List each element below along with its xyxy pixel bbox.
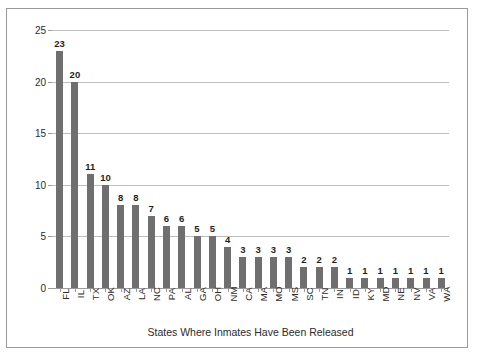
bar-series: 232011108876655433332221111111 — [52, 30, 449, 288]
bar-value-label: 2 — [301, 254, 306, 265]
bar[interactable]: 6 — [163, 226, 170, 288]
bar-value-label: 3 — [286, 244, 291, 255]
bar-value-label: 1 — [439, 265, 444, 276]
chart-figure: Number Released Since 1973 0510152025 23… — [0, 0, 477, 357]
x-label-slot: KY — [357, 293, 372, 321]
bar-value-label: 1 — [347, 265, 352, 276]
bar-slot: 10 — [98, 30, 113, 288]
bar-slot: 3 — [266, 30, 281, 288]
bar-value-label: 5 — [194, 223, 199, 234]
x-label-slot: MO — [266, 293, 281, 321]
bar[interactable]: 4 — [224, 247, 231, 288]
bar-value-label: 20 — [70, 69, 81, 80]
x-label-slot: MS — [281, 293, 296, 321]
x-label-slot: VA — [418, 293, 433, 321]
x-label-slot: TN — [312, 293, 327, 321]
x-label-slot: MD — [373, 293, 388, 321]
y-tick-label: 15 — [35, 128, 46, 139]
bar-value-label: 7 — [149, 203, 154, 214]
bar[interactable]: 3 — [285, 257, 292, 288]
bar[interactable]: 2 — [331, 267, 338, 288]
bar-slot: 1 — [373, 30, 388, 288]
bar[interactable]: 2 — [300, 267, 307, 288]
bar[interactable]: 10 — [102, 185, 109, 288]
x-label-slot: MA — [250, 293, 265, 321]
bar[interactable]: 8 — [132, 205, 139, 288]
bar[interactable]: 11 — [87, 174, 94, 288]
bar-slot: 20 — [67, 30, 82, 288]
bar-slot: 5 — [205, 30, 220, 288]
bar-value-label: 8 — [133, 192, 138, 203]
x-axis-title: States Where Inmates Have Been Released — [52, 326, 449, 338]
bar-value-label: 1 — [393, 265, 398, 276]
bar-slot: 6 — [159, 30, 174, 288]
y-tick-label: 5 — [40, 231, 46, 242]
bar[interactable]: 5 — [194, 236, 201, 288]
x-label-slot: TX — [83, 293, 98, 321]
bar-slot: 7 — [144, 30, 159, 288]
bar-value-label: 10 — [100, 172, 111, 183]
bar-value-label: 8 — [118, 192, 123, 203]
x-label-slot: ID — [342, 293, 357, 321]
x-label-slot: OH — [205, 293, 220, 321]
bar-value-label: 1 — [408, 265, 413, 276]
bar-slot: 8 — [128, 30, 143, 288]
bar-value-label: 3 — [271, 244, 276, 255]
bar-slot: 1 — [418, 30, 433, 288]
bar-value-label: 23 — [54, 38, 65, 49]
x-axis-tick-labels: FLILTXOKAZLANCPAALGAOHNMCAMAMOMSSCTNINID… — [52, 293, 449, 321]
bar[interactable]: 23 — [56, 51, 63, 288]
x-label-slot: OK — [98, 293, 113, 321]
bar-slot: 3 — [250, 30, 265, 288]
bar[interactable]: 2 — [316, 267, 323, 288]
bar-value-label: 3 — [255, 244, 260, 255]
bar-slot: 4 — [220, 30, 235, 288]
bar-slot: 1 — [434, 30, 449, 288]
x-label-slot: IN — [327, 293, 342, 321]
bar[interactable]: 1 — [361, 278, 368, 288]
bar-slot: 1 — [388, 30, 403, 288]
bar-value-label: 5 — [210, 223, 215, 234]
x-label-slot: NE — [388, 293, 403, 321]
bar-slot: 23 — [52, 30, 67, 288]
bar-value-label: 2 — [316, 254, 321, 265]
bar-slot: 11 — [83, 30, 98, 288]
y-tick-label: 0 — [40, 283, 46, 294]
bar-slot: 1 — [342, 30, 357, 288]
bar-value-label: 2 — [332, 254, 337, 265]
bar[interactable]: 8 — [117, 205, 124, 288]
bar-slot: 1 — [403, 30, 418, 288]
bar-value-label: 1 — [378, 265, 383, 276]
bar-slot: 3 — [281, 30, 296, 288]
plot-area: 0510152025 23201110887665543333222111111… — [52, 30, 449, 288]
bar-slot: 5 — [189, 30, 204, 288]
bar-slot: 2 — [296, 30, 311, 288]
bar[interactable]: 1 — [423, 278, 430, 288]
bar[interactable]: 3 — [270, 257, 277, 288]
x-label-slot: NM — [220, 293, 235, 321]
x-label-slot: FL — [52, 293, 67, 321]
x-label-slot: CA — [235, 293, 250, 321]
bar-slot: 2 — [312, 30, 327, 288]
bar-slot: 3 — [235, 30, 250, 288]
x-label-slot: LA — [128, 293, 143, 321]
bar[interactable]: 1 — [346, 278, 353, 288]
x-tick-label: WA — [441, 286, 452, 301]
x-label-slot: AL — [174, 293, 189, 321]
y-tick-label: 25 — [35, 25, 46, 36]
bar[interactable]: 3 — [239, 257, 246, 288]
x-label-slot: IL — [67, 293, 82, 321]
bar-value-label: 6 — [164, 213, 169, 224]
bar-value-label: 11 — [85, 161, 95, 172]
bar[interactable]: 5 — [209, 236, 216, 288]
x-label-slot: WA — [434, 293, 449, 321]
bar-value-label: 6 — [179, 213, 184, 224]
bar[interactable]: 3 — [255, 257, 262, 288]
bar[interactable]: 7 — [148, 216, 155, 288]
bar-slot: 6 — [174, 30, 189, 288]
x-label-slot: PA — [159, 293, 174, 321]
x-label-slot: GA — [189, 293, 204, 321]
x-label-slot: NC — [144, 293, 159, 321]
bar[interactable]: 6 — [178, 226, 185, 288]
bar[interactable]: 20 — [71, 82, 78, 288]
